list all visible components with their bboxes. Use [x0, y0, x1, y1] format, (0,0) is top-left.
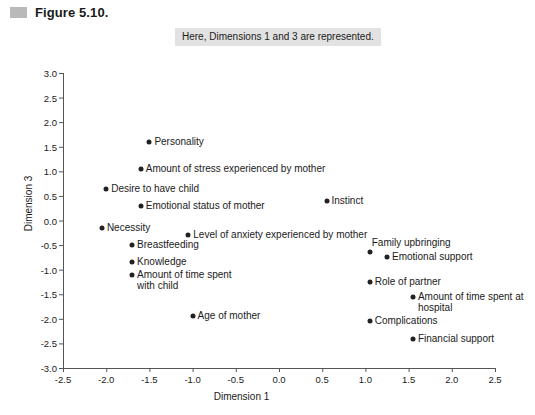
- data-point[interactable]: [104, 186, 109, 191]
- x-tick-label: 0.5: [316, 374, 329, 385]
- data-point-label: Age of mother: [198, 311, 261, 323]
- y-tick-label: 2.5: [23, 92, 57, 103]
- x-axis-title-text: Dimension 1: [214, 391, 270, 402]
- x-tick-label: -1.5: [141, 374, 157, 385]
- data-point-label: Complications: [375, 316, 438, 328]
- x-tick-label: -0.5: [228, 374, 244, 385]
- data-point[interactable]: [190, 314, 195, 319]
- data-point-label: Financial support: [418, 333, 494, 345]
- x-tick-label: -2.5: [55, 374, 71, 385]
- data-point-label: Necessity: [107, 222, 150, 234]
- plot-axes: [0, 0, 535, 415]
- x-tick-label: 0.0: [272, 374, 285, 385]
- data-point-label: Emotional support: [392, 252, 473, 264]
- y-axis-title: Dimension 3: [23, 154, 34, 254]
- x-tick-label: -1.0: [184, 374, 200, 385]
- y-tick-label: -2.0: [23, 313, 57, 324]
- data-point[interactable]: [130, 260, 135, 265]
- x-tick-label: 1.0: [359, 374, 372, 385]
- data-point[interactable]: [147, 139, 152, 144]
- data-point[interactable]: [130, 243, 135, 248]
- data-point-label: Amount of time spent with child: [137, 268, 232, 291]
- x-tick-label: 2.0: [445, 374, 458, 385]
- data-point[interactable]: [385, 255, 390, 260]
- data-point-label: Knowledge: [137, 257, 186, 269]
- y-tick-label: -3.0: [23, 363, 57, 374]
- scatter-plot: -2.5-2.0-1.5-1.0-0.50.00.51.01.52.02.5 3…: [0, 0, 535, 415]
- y-tick-label: -1.0: [23, 264, 57, 275]
- data-point[interactable]: [138, 203, 143, 208]
- x-tick-label: 2.5: [488, 374, 501, 385]
- data-point-label: Role of partner: [375, 276, 441, 288]
- data-point[interactable]: [367, 250, 372, 255]
- data-point-label: Amount of stress experienced by mother: [146, 163, 326, 175]
- y-tick-label: -1.5: [23, 289, 57, 300]
- data-point[interactable]: [367, 319, 372, 324]
- data-point[interactable]: [186, 233, 191, 238]
- data-point-label: Amount of time spent at hospital: [418, 290, 524, 313]
- data-point[interactable]: [324, 198, 329, 203]
- y-tick-label: 2.0: [23, 117, 57, 128]
- data-point-label: Emotional status of mother: [146, 200, 265, 212]
- x-axis-title: Dimension 1: [0, 391, 535, 402]
- x-tick-label: -2.0: [98, 374, 114, 385]
- data-point-label: Family upbringing: [372, 238, 451, 250]
- data-point[interactable]: [138, 166, 143, 171]
- data-point-label: Level of anxiety experienced by mother: [193, 230, 367, 242]
- data-point-label: Breastfeeding: [137, 239, 199, 251]
- y-tick-label: -2.5: [23, 338, 57, 349]
- data-point-label: Desire to have child: [111, 183, 199, 195]
- data-point[interactable]: [99, 225, 104, 230]
- data-point-label: Instinct: [332, 195, 364, 207]
- data-point-label: Personality: [154, 136, 203, 148]
- data-point[interactable]: [367, 279, 372, 284]
- data-point[interactable]: [130, 272, 135, 277]
- y-tick-label: 1.5: [23, 141, 57, 152]
- x-tick-label: 1.5: [402, 374, 415, 385]
- data-point[interactable]: [410, 294, 415, 299]
- data-point[interactable]: [410, 336, 415, 341]
- y-tick-label: 3.0: [23, 68, 57, 79]
